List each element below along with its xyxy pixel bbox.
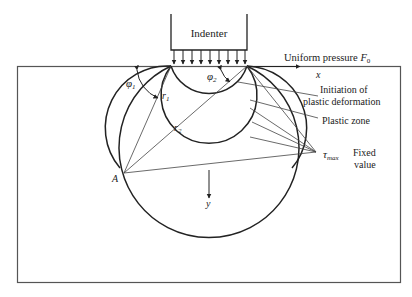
plastic-zone-label: Plastic zone — [322, 115, 371, 126]
right-lobe-arc — [247, 66, 307, 168]
point-a-label: A — [111, 173, 119, 184]
phi1-label: φ1 — [126, 77, 136, 91]
fixed-value-line2: value — [354, 159, 376, 170]
fixed-value-line1: Fixed — [353, 147, 376, 158]
fixed-tau-circle — [119, 66, 299, 238]
y-axis-label: y — [205, 198, 211, 209]
indentation-diagram: Indenter x Uniform pressure F0 y — [0, 0, 412, 297]
initiation-label-line1: Initiation of — [320, 84, 368, 95]
initiation-label-line2: plastic deformation — [303, 96, 380, 107]
phi2-angle-arc — [221, 70, 230, 82]
left-lobe-arc — [105, 66, 171, 168]
line-a-to-right-edge — [124, 66, 247, 173]
r1-label: r1 — [162, 90, 169, 103]
tau-max-label: τmax — [323, 148, 339, 162]
x-axis-label: x — [315, 69, 321, 80]
uniform-pressure-label: Uniform pressure F0 — [284, 52, 371, 65]
pressure-arrows — [174, 50, 245, 64]
phi2-label: φ2 — [207, 70, 217, 84]
phi1-angle-arc — [137, 70, 158, 98]
leader-initiation — [238, 82, 318, 96]
indenter-label: Indenter — [191, 27, 228, 39]
leader-tau-5 — [124, 152, 316, 173]
